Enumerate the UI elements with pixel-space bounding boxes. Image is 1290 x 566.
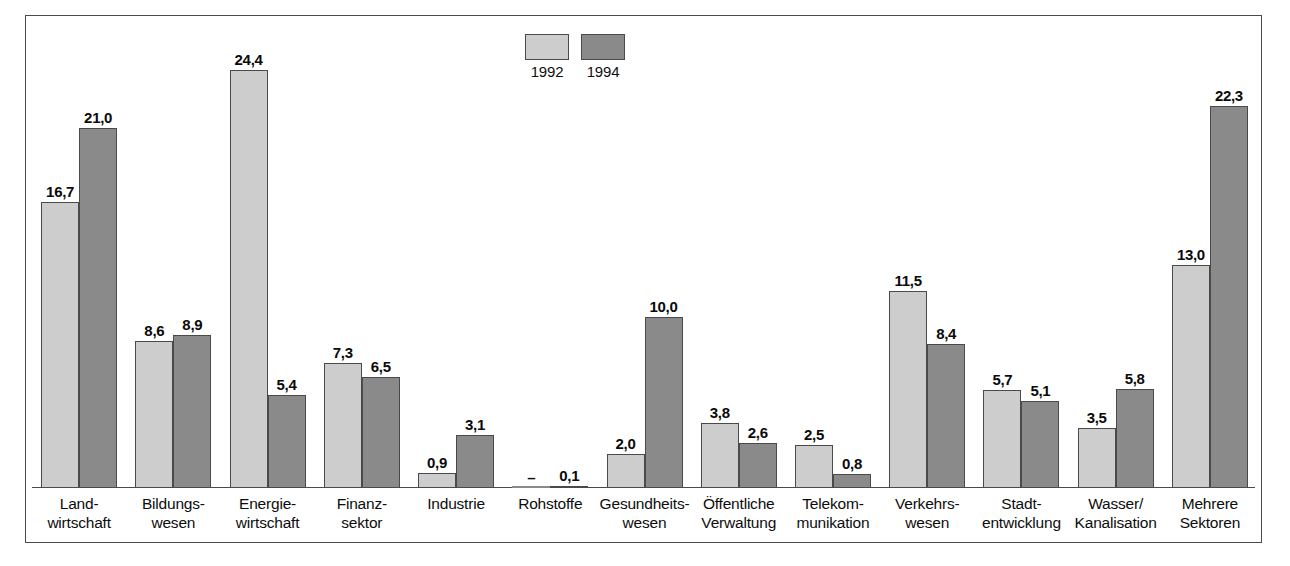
category-label: Telekom-munikation [796, 494, 869, 532]
bar-group: 13,022,3MehrereSektoren [1172, 16, 1248, 542]
bar-value-label: 3,5 [1078, 409, 1116, 426]
bar-value-label: 11,5 [889, 272, 927, 289]
bar-1994[interactable] [645, 317, 683, 489]
bar-missing-marker [512, 486, 550, 488]
chart-frame: 1992 1994 16,721,0Land-wirtschaft8,68,9B… [25, 15, 1262, 543]
bar-value-label: – [512, 469, 550, 486]
bar-1992[interactable] [1078, 428, 1116, 488]
category-label: Finanz-sektor [337, 494, 387, 532]
bar-group-bars: –0,1 [512, 16, 588, 488]
bar-group-bars: 11,58,4 [889, 16, 965, 488]
bar-1994[interactable] [1021, 401, 1059, 488]
category-label: ÖffentlicheVerwaltung [701, 494, 776, 532]
bar-group-bars: 2,010,0 [607, 16, 683, 488]
bar-value-label: 5,4 [268, 376, 306, 393]
bar-value-label: 8,4 [927, 325, 965, 342]
category-label: Rohstoffe [518, 494, 582, 513]
bar-1992[interactable] [418, 473, 456, 488]
bar-value-label: 6,5 [362, 358, 400, 375]
bar-1994[interactable] [550, 486, 588, 488]
bar-value-label: 16,7 [41, 183, 79, 200]
bar-value-label: 0,1 [550, 467, 588, 484]
bar-value-label: 5,1 [1021, 382, 1059, 399]
bar-group: 3,82,6ÖffentlicheVerwaltung [701, 16, 777, 542]
bar-value-label: 22,3 [1210, 87, 1248, 104]
bar-1994[interactable] [268, 395, 306, 488]
bar-value-label: 13,0 [1172, 246, 1210, 263]
bar-1994[interactable] [362, 377, 400, 488]
bar-value-label: 24,4 [230, 51, 268, 68]
bar-group-bars: 16,721,0 [41, 16, 117, 488]
bar-1994[interactable] [1210, 106, 1248, 488]
bar-group: –0,1Rohstoffe [512, 16, 588, 542]
bar-value-label: 3,8 [701, 404, 739, 421]
bar-group-bars: 2,50,8 [795, 16, 871, 488]
bar-group-bars: 3,82,6 [701, 16, 777, 488]
bar-1992[interactable] [230, 70, 268, 488]
bar-value-label: 7,3 [324, 344, 362, 361]
bar-group: 2,50,8Telekom-munikation [795, 16, 871, 542]
bar-value-label: 21,0 [79, 109, 117, 126]
bar-1994[interactable] [833, 474, 871, 488]
category-label: Industrie [427, 494, 485, 513]
bar-1992[interactable] [701, 423, 739, 488]
category-label: Land-wirtschaft [47, 494, 110, 532]
bar-group: 5,75,1Stadt-entwicklung [983, 16, 1059, 542]
bar-group-bars: 0,93,1 [418, 16, 494, 488]
bar-group-bars: 5,75,1 [983, 16, 1059, 488]
bar-value-label: 2,0 [607, 435, 645, 452]
bar-1994[interactable] [739, 443, 777, 488]
bar-1992[interactable] [41, 202, 79, 488]
bar-1994[interactable] [456, 435, 494, 488]
bar-1994[interactable] [1116, 389, 1154, 488]
bar-1994[interactable] [927, 344, 965, 488]
bar-1992[interactable] [135, 341, 173, 488]
category-label: Wasser/Kanalisation [1075, 494, 1157, 532]
bar-value-label: 5,8 [1116, 370, 1154, 387]
category-label: Gesundheits-wesen [600, 494, 690, 532]
bar-1992[interactable] [889, 291, 927, 488]
category-label: Stadt-entwicklung [982, 494, 1061, 532]
bar-group-bars: 13,022,3 [1172, 16, 1248, 488]
bar-group: 3,55,8Wasser/Kanalisation [1078, 16, 1154, 542]
category-label: Bildungs-wesen [142, 494, 205, 532]
bar-value-label: 8,9 [173, 316, 211, 333]
bar-value-label: 10,0 [645, 298, 683, 315]
bar-group-bars: 24,45,4 [230, 16, 306, 488]
bar-1994[interactable] [173, 335, 211, 488]
bar-value-label: 5,7 [983, 371, 1021, 388]
bar-value-label: 3,1 [456, 416, 494, 433]
bar-group: 0,93,1Industrie [418, 16, 494, 542]
bar-1992[interactable] [983, 390, 1021, 488]
bar-group: 8,68,9Bildungs-wesen [135, 16, 211, 542]
bar-group-bars: 8,68,9 [135, 16, 211, 488]
bar-1994[interactable] [79, 128, 117, 488]
category-label: MehrereSektoren [1180, 494, 1240, 532]
bar-value-label: 0,9 [418, 454, 456, 471]
category-label: Verkehrs-wesen [895, 494, 960, 532]
bar-1992[interactable] [607, 454, 645, 488]
bar-value-label: 2,6 [739, 424, 777, 441]
bar-group: 16,721,0Land-wirtschaft [41, 16, 117, 542]
plot-area: 16,721,0Land-wirtschaft8,68,9Bildungs-we… [26, 16, 1261, 542]
bar-value-label: 8,6 [135, 322, 173, 339]
bar-group-bars: 7,36,5 [324, 16, 400, 488]
bar-1992[interactable] [795, 445, 833, 488]
bar-group-bars: 3,55,8 [1078, 16, 1154, 488]
category-label: Energie-wirtschaft [236, 494, 299, 532]
bar-1992[interactable] [1172, 265, 1210, 488]
bar-group: 7,36,5Finanz-sektor [324, 16, 400, 542]
bar-value-label: 2,5 [795, 426, 833, 443]
bar-1992[interactable] [324, 363, 362, 488]
bar-value-label: 0,8 [833, 455, 871, 472]
bar-group: 2,010,0Gesundheits-wesen [607, 16, 683, 542]
bar-group: 11,58,4Verkehrs-wesen [889, 16, 965, 542]
bar-group: 24,45,4Energie-wirtschaft [230, 16, 306, 542]
